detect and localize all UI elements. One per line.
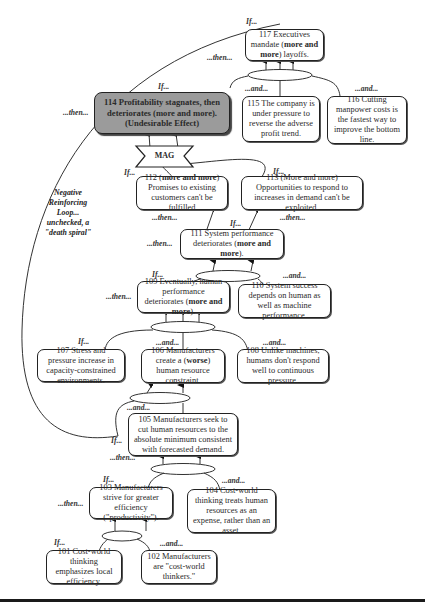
label-and-105: ...and... [127, 403, 150, 412]
label-then-109: ...then... [106, 292, 131, 301]
label-and-106: ...and... [156, 338, 179, 347]
label-then-103: ...then... [58, 499, 83, 508]
node-111-text: 111 System performance deteriorates (mor… [185, 229, 279, 259]
node-110: 110 System success depends on human as w… [238, 284, 331, 318]
label-if-117: If... [246, 17, 257, 26]
node-114-text: 114 Profitability stagnates, then deteri… [99, 97, 225, 129]
label-and-104: ...and... [222, 476, 245, 485]
mag-label: MAG [136, 151, 193, 160]
node-112-text: 112 (more and more) Promises to existing… [141, 173, 223, 213]
node-105-text: 105 Manufacturers seek to cut human reso… [133, 415, 233, 455]
label-if-101: If... [54, 538, 65, 547]
node-110-text: 110 System success depends on human as w… [243, 281, 326, 321]
node-116-text: 116 Cutting manpower costs is the fastes… [332, 95, 402, 145]
node-103: 103 Manufacturers strive for greater eff… [89, 487, 173, 519]
label-then-114: ...then... [63, 108, 88, 117]
label-if-109: If... [152, 270, 163, 279]
node-117-text: 117 Executives mandate (more and more) l… [250, 30, 319, 60]
node-108: 108 Unlike machines, humans don't respon… [237, 349, 329, 383]
label-and-102: ...and... [160, 539, 183, 548]
node-102-text: 102 Manufacturers are "cost-world thinke… [146, 552, 212, 582]
node-109-text: 109 Eventually, human performance deteri… [142, 277, 225, 317]
bottom-rule [0, 599, 425, 602]
label-then-111: ...then... [147, 239, 172, 248]
node-106-text: 106 Manufacturers create a (worse) human… [146, 346, 220, 386]
node-101-text: 101 Cost-world thinking emphasizes local… [51, 547, 117, 587]
label-then-105: ...then... [110, 453, 135, 462]
node-111: 111 System performance deteriorates (mor… [180, 229, 284, 259]
label-if-112: If... [124, 168, 135, 177]
label-if-105: If... [111, 436, 122, 445]
node-107: 107 Stress and pressure increase in capa… [37, 349, 125, 382]
node-107-text: 107 Stress and pressure increase in capa… [42, 346, 120, 386]
label-if-111: If... [230, 219, 241, 228]
label-if-114: If... [158, 82, 169, 91]
node-101: 101 Cost-world thinking emphasizes local… [46, 550, 122, 584]
label-and-115: ...and... [245, 84, 268, 93]
label-then-117: ...then... [207, 53, 232, 62]
node-113-text: 113 (More and more) Opportunities to res… [246, 173, 358, 213]
label-then-112: ...then... [152, 213, 177, 222]
label-and-110: ...and... [283, 271, 306, 280]
label-if-113: If... [273, 167, 284, 176]
node-102: 102 Manufacturers are "cost-world thinke… [141, 550, 217, 584]
node-113: 113 (More and more) Opportunities to res… [241, 176, 363, 210]
node-115: 115 The company is under pressure to rev… [242, 96, 320, 142]
node-104-text: 104 Cost-world thinking treats human res… [192, 486, 271, 536]
node-105: 105 Manufacturers seek to cut human reso… [128, 413, 238, 456]
label-then-113: ...then... [280, 213, 305, 222]
node-116: 116 Cutting manpower costs is the fastes… [327, 96, 407, 144]
node-117: 117 Executives mandate (more and more) l… [245, 29, 324, 61]
label-if-107: If... [78, 337, 89, 346]
node-108-text: 108 Unlike machines, humans don't respon… [242, 346, 324, 386]
loop-annotation: Negative Reinforcing Loop... unchecked, … [38, 188, 98, 238]
node-106: 106 Manufacturers create a (worse) human… [141, 349, 225, 383]
label-if-103: If... [103, 475, 114, 484]
node-103-text: 103 Manufacturers strive for greater eff… [94, 483, 168, 523]
node-104: 104 Cost-world thinking treats human res… [187, 489, 276, 533]
node-109: 109 Eventually, human performance deteri… [137, 281, 230, 313]
node-112: 112 (more and more) Promises to existing… [136, 176, 228, 210]
label-and-116: ...and... [355, 84, 378, 93]
label-and-108: ...and... [263, 338, 286, 347]
node-114-undesirable-effect: 114 Profitability stagnates, then deteri… [94, 92, 230, 134]
node-115-text: 115 The company is under pressure to rev… [247, 99, 315, 139]
